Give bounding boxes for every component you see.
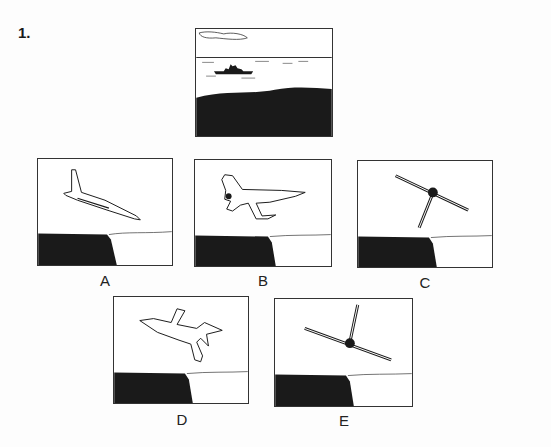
ship-scene-illustration — [196, 29, 332, 136]
option-panel-a[interactable] — [37, 158, 173, 266]
option-label-c: C — [410, 274, 440, 291]
option-panel-d[interactable] — [113, 296, 249, 404]
question-number: 1. — [18, 24, 31, 41]
aircraft-banked-top-view-icon — [114, 297, 248, 403]
option-label-b: B — [248, 272, 278, 289]
aircraft-head-on-view-icon — [358, 161, 492, 267]
aircraft-side-view-icon — [38, 159, 172, 265]
option-panel-e[interactable] — [274, 298, 413, 407]
option-label-e: E — [329, 412, 359, 429]
option-label-d: D — [167, 411, 197, 428]
aircraft-top-view-icon — [195, 160, 331, 266]
aircraft-rear-view-icon — [275, 299, 412, 406]
option-panel-c[interactable] — [357, 160, 493, 268]
option-label-a: A — [90, 272, 120, 289]
reference-panel — [195, 28, 333, 137]
option-panel-b[interactable] — [194, 159, 332, 267]
